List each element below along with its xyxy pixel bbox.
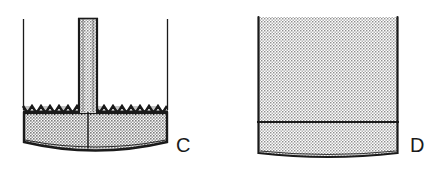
figure-panel: C D (0, 0, 442, 180)
panel-d-label: D (410, 134, 424, 156)
figure-canvas: C D (0, 0, 442, 180)
panel-c-label: C (176, 134, 190, 156)
panel-d-fill (254, 14, 404, 164)
